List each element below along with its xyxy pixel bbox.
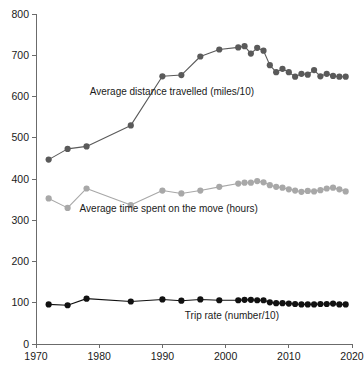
data-point: [267, 62, 273, 68]
y-tick-label: 700: [11, 49, 29, 61]
data-point: [241, 297, 247, 303]
data-point: [254, 178, 260, 184]
y-tick-label: 0: [23, 338, 29, 350]
data-point: [83, 296, 89, 302]
data-point: [336, 301, 342, 307]
data-point: [46, 195, 52, 201]
data-point: [311, 301, 317, 307]
data-point: [336, 186, 342, 192]
data-point: [178, 298, 184, 304]
x-tick-label: 1980: [88, 350, 112, 362]
series-label-2: Trip rate (number/10): [185, 310, 279, 321]
data-point: [65, 205, 71, 211]
data-point: [336, 74, 342, 80]
series-0: [46, 43, 349, 163]
series-line: [49, 46, 346, 159]
data-point: [260, 48, 266, 54]
data-point: [324, 301, 330, 307]
data-point: [46, 301, 52, 307]
data-point: [292, 301, 298, 307]
data-point: [317, 73, 323, 79]
data-point: [324, 185, 330, 191]
y-tick-label: 100: [11, 296, 29, 308]
data-point: [324, 71, 330, 77]
data-point: [273, 184, 279, 190]
data-point: [317, 187, 323, 193]
x-tick-label: 1990: [151, 350, 175, 362]
y-axis: 0100200300400500600700800: [11, 8, 36, 350]
x-tick-label: 2010: [277, 350, 301, 362]
data-point: [330, 185, 336, 191]
data-point: [216, 297, 222, 303]
y-tick-label: 400: [11, 173, 29, 185]
x-tick-label: 1970: [24, 350, 48, 362]
series-label-1: Average time spent on the move (hours): [80, 203, 258, 214]
data-point: [286, 186, 292, 192]
data-point: [260, 179, 266, 185]
data-point: [254, 45, 260, 51]
x-tick-label: 2020: [340, 350, 364, 362]
data-point: [197, 187, 203, 193]
data-point: [286, 69, 292, 75]
x-tick-label: 2000: [214, 350, 238, 362]
data-point: [65, 302, 71, 308]
series-2: [46, 296, 349, 309]
data-point: [248, 297, 254, 303]
y-tick-label: 200: [11, 255, 29, 267]
data-point: [311, 67, 317, 73]
data-point: [273, 300, 279, 306]
data-point: [235, 297, 241, 303]
data-point: [65, 146, 71, 152]
data-point: [248, 51, 254, 57]
data-point: [248, 180, 254, 186]
data-point: [46, 157, 52, 163]
data-point: [279, 66, 285, 72]
chart-container: 0100200300400500600700800197019801990200…: [0, 0, 364, 370]
data-point: [235, 44, 241, 50]
data-point: [330, 73, 336, 79]
data-point: [216, 184, 222, 190]
data-point: [267, 182, 273, 188]
data-point: [159, 296, 165, 302]
data-point: [159, 187, 165, 193]
data-point: [311, 188, 317, 194]
y-tick-label: 800: [11, 8, 29, 20]
data-point: [279, 300, 285, 306]
data-point: [317, 301, 323, 307]
line-chart: 0100200300400500600700800197019801990200…: [0, 0, 364, 370]
data-point: [298, 301, 304, 307]
data-point: [298, 71, 304, 77]
data-point: [305, 301, 311, 307]
data-point: [279, 185, 285, 191]
data-point: [330, 300, 336, 306]
data-point: [128, 122, 134, 128]
data-point: [286, 300, 292, 306]
data-point: [260, 297, 266, 303]
data-point: [241, 43, 247, 49]
data-point: [292, 187, 298, 193]
data-point: [178, 72, 184, 78]
data-point: [235, 180, 241, 186]
data-point: [197, 296, 203, 302]
y-tick-label: 300: [11, 214, 29, 226]
data-point: [254, 297, 260, 303]
data-point: [197, 53, 203, 59]
data-point: [343, 301, 349, 307]
data-point: [128, 298, 134, 304]
y-tick-label: 600: [11, 90, 29, 102]
data-point: [159, 73, 165, 79]
data-point: [216, 46, 222, 52]
data-point: [305, 72, 311, 78]
series-label-0: Average distance travelled (miles/10): [90, 86, 254, 97]
data-point: [267, 299, 273, 305]
data-point: [298, 189, 304, 195]
data-point: [292, 74, 298, 80]
data-point: [343, 74, 349, 80]
data-point: [343, 188, 349, 194]
y-tick-label: 500: [11, 131, 29, 143]
x-axis: 197019801990200020102020: [24, 344, 364, 362]
data-point: [305, 188, 311, 194]
data-point: [83, 185, 89, 191]
data-point: [178, 190, 184, 196]
data-point: [83, 143, 89, 149]
